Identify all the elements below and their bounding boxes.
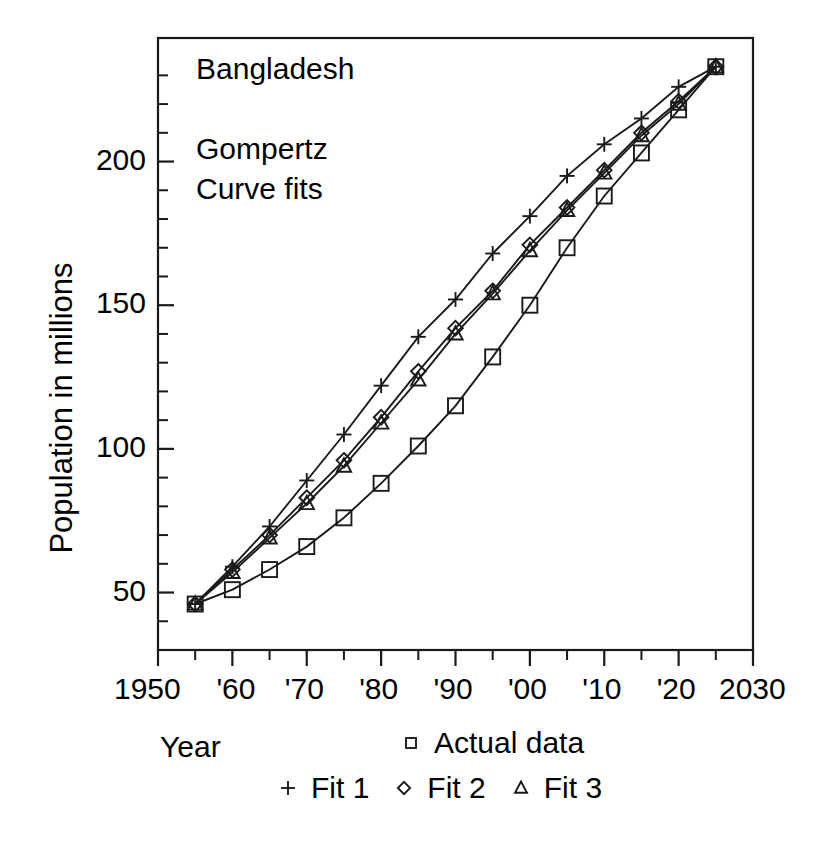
chart-title-country: Bangladesh xyxy=(196,52,354,86)
legend-label: Actual data xyxy=(434,728,584,758)
legend-label: Fit 1 xyxy=(311,773,369,803)
x-tick-label: '60 xyxy=(216,672,255,706)
x-tick-label: '90 xyxy=(434,672,473,706)
y-tick-label: 50 xyxy=(56,574,146,608)
x-axis-title: Year xyxy=(160,730,221,764)
legend-row-primary: Actual data xyxy=(398,728,584,758)
legend-marker-triangle-icon xyxy=(508,777,534,799)
y-axis-title: Population in millions xyxy=(44,198,80,618)
legend-entry-fit-2: Fit 2 xyxy=(391,773,485,803)
legend-entry-actual-data: Actual data xyxy=(398,728,584,758)
y-tick-label: 100 xyxy=(56,430,146,464)
y-tick-label: 200 xyxy=(56,143,146,177)
x-tick-label: '00 xyxy=(508,672,547,706)
x-tick-label: '80 xyxy=(359,672,398,706)
legend-marker-plus-icon xyxy=(275,777,301,799)
legend-label: Fit 2 xyxy=(427,773,485,803)
legend-entry-fit-3: Fit 3 xyxy=(508,773,602,803)
chart-subtitle-model-2: Curve fits xyxy=(196,172,323,206)
chart-subtitle-model: Gompertz xyxy=(196,132,328,166)
y-tick-label: 150 xyxy=(56,286,146,320)
x-tick-label: '70 xyxy=(285,672,324,706)
x-tick-label: 1950 xyxy=(114,672,181,706)
legend-row-fits: Fit 1Fit 2Fit 3 xyxy=(275,773,602,803)
legend-marker-diamond-icon xyxy=(391,777,417,799)
x-tick-label: '10 xyxy=(582,672,621,706)
figure-container: Population in millions Bangladesh Gomper… xyxy=(0,0,835,843)
legend-entry-fit-1: Fit 1 xyxy=(275,773,369,803)
x-tick-label: '20 xyxy=(657,672,696,706)
legend-label: Fit 3 xyxy=(544,773,602,803)
legend-marker-square-icon xyxy=(398,732,424,754)
chart-plot-area xyxy=(0,0,835,843)
x-tick-label: 2030 xyxy=(719,672,786,706)
